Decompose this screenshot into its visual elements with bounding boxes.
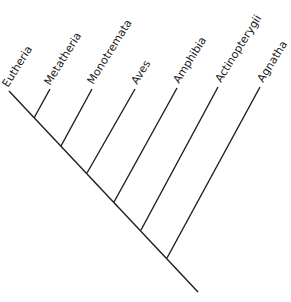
taxon-label-metatheria: Metatheria	[42, 30, 85, 88]
taxon-label-aves: Aves	[129, 58, 154, 87]
branch-group	[34, 87, 260, 258]
branch-monotremata	[61, 89, 92, 146]
branch-amphibia	[114, 88, 177, 202]
branch-aves	[87, 89, 135, 173]
taxon-label-eutheria: Eutheria	[0, 43, 35, 89]
cladogram: EutheriaMetatheriaMonotremataAvesAmphibi…	[0, 0, 291, 302]
taxon-label-group: EutheriaMetatheriaMonotremataAvesAmphibi…	[0, 13, 290, 90]
cladogram-backbone	[9, 91, 198, 292]
taxon-label-agnatha: Agnatha	[255, 38, 291, 84]
branch-metatheria	[34, 89, 50, 118]
taxon-label-monotremata: Monotremata	[85, 17, 135, 86]
branch-agnatha	[167, 87, 260, 258]
branch-actinopterygii	[141, 87, 218, 230]
taxon-label-amphibia: Amphibia	[171, 35, 210, 86]
